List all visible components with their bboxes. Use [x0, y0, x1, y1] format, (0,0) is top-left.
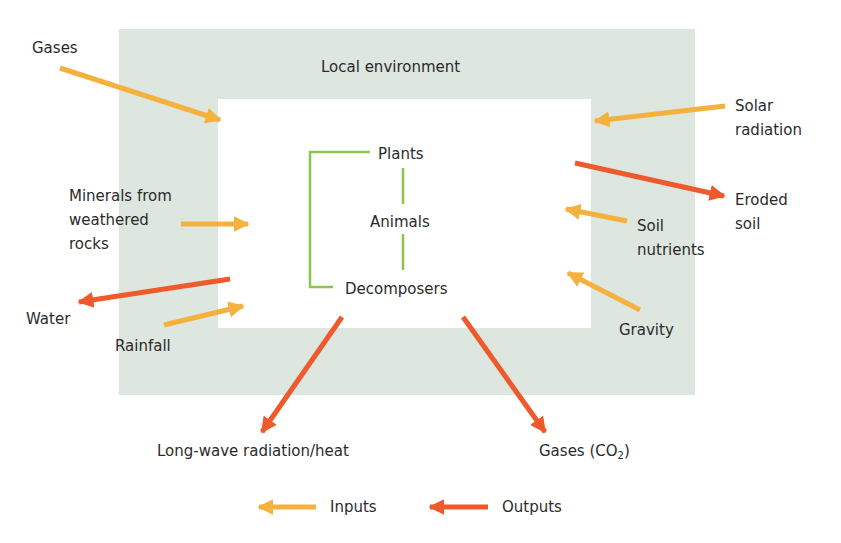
minerals-line2: weathered [69, 210, 149, 231]
arrows-layer [0, 0, 841, 543]
gravity-input-arrow [568, 273, 640, 310]
local-environment-label: Local environment [321, 57, 460, 78]
solar-line2: radiation [735, 120, 802, 141]
gases-co2-prefix: Gases (CO [539, 442, 618, 460]
decomposers-label: Decomposers [345, 279, 448, 300]
gases-input-arrow [60, 68, 220, 120]
gases-input-label: Gases [32, 38, 78, 59]
eroded-line2: soil [735, 214, 760, 235]
gases-co2-output-label: Gases (CO2) [539, 441, 630, 466]
soil-nutrients-input-arrow [566, 209, 627, 221]
solar-line1: Solar [735, 96, 773, 117]
eroded-soil-output-arrow [575, 163, 724, 196]
legend-inputs-label: Inputs [330, 497, 377, 518]
plants-label: Plants [378, 144, 424, 165]
gases-co2-suffix: ) [624, 442, 630, 460]
minerals-line3: rocks [69, 234, 109, 255]
longwave-output-arrow [262, 317, 342, 432]
rainfall-input-arrow [164, 306, 243, 325]
rainfall-input-label: Rainfall [115, 336, 171, 357]
eroded-line1: Eroded [735, 190, 788, 211]
gases-co2-output-arrow [463, 317, 545, 432]
animals-label: Animals [370, 212, 430, 233]
longwave-output-label: Long-wave radiation/heat [157, 441, 349, 462]
water-output-arrow [79, 279, 230, 302]
solar-input-arrow [595, 106, 725, 121]
gravity-input-label: Gravity [619, 320, 674, 341]
minerals-line1: Minerals from [69, 186, 172, 207]
soil-nutrients-line2: nutrients [637, 240, 705, 261]
legend-outputs-label: Outputs [502, 497, 562, 518]
water-output-label: Water [26, 309, 70, 330]
soil-nutrients-line1: Soil [637, 216, 664, 237]
